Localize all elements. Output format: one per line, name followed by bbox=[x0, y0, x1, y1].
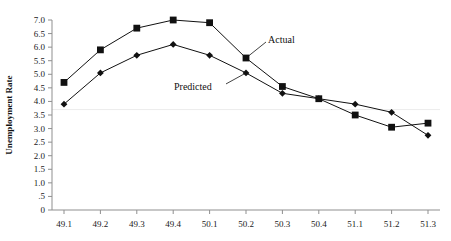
y-axis-tick-label: 6.5 bbox=[34, 29, 46, 39]
data-point-marker-square bbox=[206, 19, 213, 26]
y-axis-title: Unemployment Rate bbox=[4, 75, 14, 154]
x-axis-tick-label: 51.1 bbox=[347, 219, 363, 229]
chart-container: 0.51.01.52.02.53.03.54.04.55.05.56.06.57… bbox=[0, 0, 451, 241]
data-point-marker-square bbox=[133, 25, 140, 32]
y-axis-tick-label: 5.5 bbox=[34, 56, 46, 66]
data-point-marker-diamond bbox=[206, 52, 213, 59]
y-axis-tick-label: 4.0 bbox=[34, 96, 46, 106]
x-axis-tick-label: 50.3 bbox=[275, 219, 291, 229]
annotation-leader-line bbox=[246, 42, 266, 58]
y-axis-tick-label: 2.5 bbox=[34, 137, 46, 147]
x-axis-tick-label: 49.2 bbox=[93, 219, 109, 229]
x-axis-tick-label: 51.2 bbox=[384, 219, 400, 229]
data-point-marker-diamond bbox=[170, 41, 177, 48]
data-point-marker-square bbox=[61, 79, 68, 86]
x-axis-tick-label: 50.4 bbox=[311, 219, 327, 229]
y-axis-tick-group: 0.51.01.52.02.53.03.54.04.55.05.56.06.57… bbox=[34, 15, 52, 215]
x-axis-tick-label: 49.1 bbox=[56, 219, 72, 229]
annotation-group: ActualPredicted bbox=[174, 34, 295, 92]
data-point-marker-square bbox=[97, 46, 104, 53]
data-point-marker-square bbox=[170, 17, 177, 24]
y-axis-tick-label: 1.5 bbox=[34, 164, 46, 174]
x-axis-tick-label: 50.2 bbox=[238, 219, 254, 229]
x-axis-tick-label: 51.3 bbox=[420, 219, 436, 229]
data-series-group bbox=[61, 17, 432, 139]
chart-plot-area: 0.51.01.52.02.53.03.54.04.55.05.56.06.57… bbox=[0, 0, 451, 241]
data-point-marker-diamond bbox=[133, 52, 140, 59]
data-point-marker-diamond bbox=[425, 132, 432, 139]
x-axis-tick-label: 50.1 bbox=[202, 219, 218, 229]
data-point-marker-square bbox=[352, 112, 359, 119]
y-axis-tick-label: 6.0 bbox=[34, 42, 46, 52]
y-axis-tick-label: 2.0 bbox=[34, 151, 46, 161]
y-axis-tick-label: 4.5 bbox=[34, 83, 46, 93]
x-axis-tick-label: 49.3 bbox=[129, 219, 145, 229]
data-point-marker-square bbox=[388, 124, 395, 131]
x-axis-tick-group: 49.149.249.349.450.150.250.350.451.151.2… bbox=[56, 210, 436, 229]
series-label-actual: Actual bbox=[268, 34, 295, 45]
series-label-predicted: Predicted bbox=[174, 81, 212, 92]
y-axis-tick-label: 3.0 bbox=[34, 124, 46, 134]
data-point-marker-square bbox=[425, 120, 432, 127]
y-axis-tick-label: .5 bbox=[38, 191, 45, 201]
data-point-marker-diamond bbox=[279, 90, 286, 97]
x-axis-tick-label: 49.4 bbox=[165, 219, 181, 229]
y-axis-tick-label: 3.5 bbox=[34, 110, 46, 120]
data-point-marker-diamond bbox=[352, 101, 359, 108]
y-axis-tick-label: 0 bbox=[41, 205, 46, 215]
data-point-marker-square bbox=[279, 83, 286, 90]
annotation-leader-line bbox=[226, 73, 246, 84]
y-axis-tick-label: 7.0 bbox=[34, 15, 46, 25]
y-axis-tick-label: 1.0 bbox=[34, 178, 46, 188]
y-axis-tick-label: 5.0 bbox=[34, 69, 46, 79]
